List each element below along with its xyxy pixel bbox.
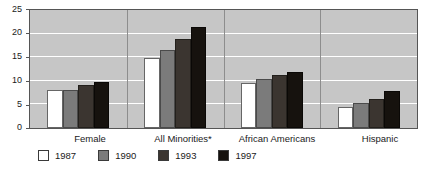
legend-label-1987: 1987 bbox=[55, 151, 76, 161]
legend-item-1990[interactable]: 1990 bbox=[98, 150, 136, 161]
legend-swatch-icon-1997 bbox=[218, 150, 229, 161]
bar-africanamericans-1990 bbox=[256, 79, 272, 128]
y-tick-label-20: 20 bbox=[0, 28, 22, 37]
legend-swatch-icon-1987 bbox=[38, 150, 49, 161]
bar-chart: 25 20 15 10 5 0 Female All Minorities* A… bbox=[0, 0, 437, 169]
bar-allminorities-1997 bbox=[191, 27, 207, 128]
category-label-hispanic: Hispanic bbox=[330, 133, 430, 144]
bar-female-1990 bbox=[63, 90, 79, 128]
bar-female-1987 bbox=[47, 90, 63, 128]
bar-allminorities-1990 bbox=[160, 50, 176, 128]
y-tick-label-15: 15 bbox=[0, 52, 22, 61]
bar-africanamericans-1997 bbox=[287, 72, 303, 128]
group-separator-3 bbox=[320, 10, 321, 128]
legend-item-1993[interactable]: 1993 bbox=[158, 150, 196, 161]
legend-swatch-icon-1993 bbox=[158, 150, 169, 161]
bar-hispanic-1997 bbox=[384, 91, 400, 128]
legend-item-1997[interactable]: 1997 bbox=[218, 150, 256, 161]
bar-hispanic-1990 bbox=[353, 103, 369, 128]
legend-label-1993: 1993 bbox=[175, 151, 196, 161]
group-separator-2 bbox=[224, 10, 225, 128]
y-tick-label-25: 25 bbox=[0, 5, 22, 14]
bar-allminorities-1993 bbox=[175, 39, 191, 128]
bar-hispanic-1993 bbox=[369, 99, 385, 128]
y-tick-label-0: 0 bbox=[0, 123, 22, 132]
bar-africanamericans-1987 bbox=[241, 83, 257, 128]
bar-female-1997 bbox=[94, 82, 110, 128]
legend-item-1987[interactable]: 1987 bbox=[38, 150, 76, 161]
bar-hispanic-1987 bbox=[338, 107, 354, 128]
bar-female-1993 bbox=[78, 85, 94, 128]
y-axis: 25 20 15 10 5 0 bbox=[0, 0, 26, 140]
group-separator-1 bbox=[127, 10, 128, 128]
plot-area bbox=[29, 9, 418, 129]
category-label-african-americans: African Americans bbox=[222, 133, 332, 144]
plot-inner bbox=[30, 10, 417, 128]
legend: 1987199019931997 bbox=[38, 150, 279, 161]
category-label-female: Female bbox=[40, 133, 140, 144]
y-tick-label-10: 10 bbox=[0, 76, 22, 85]
bar-allminorities-1987 bbox=[144, 58, 160, 128]
legend-swatch-icon-1990 bbox=[98, 150, 109, 161]
legend-label-1990: 1990 bbox=[115, 151, 136, 161]
legend-label-1997: 1997 bbox=[235, 151, 256, 161]
y-tick-label-5: 5 bbox=[0, 100, 22, 109]
bar-africanamericans-1993 bbox=[272, 75, 288, 128]
